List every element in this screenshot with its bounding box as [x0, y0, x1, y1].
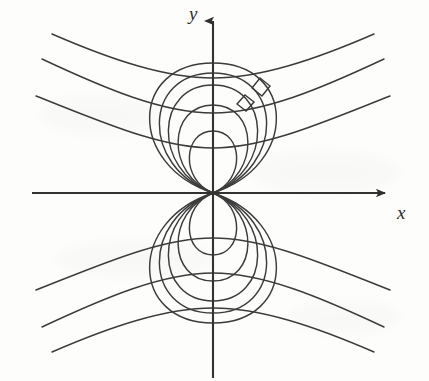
figure-container: y x [0, 0, 429, 381]
y-axis-label: y [189, 4, 197, 23]
x-axis-label: x [397, 203, 405, 222]
coordinate-axes [32, 21, 385, 378]
orthogonal-trajectories-plot [0, 0, 429, 381]
